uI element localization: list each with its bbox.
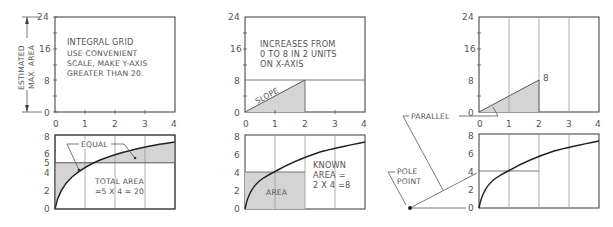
x-tick-1: 1 bbox=[272, 119, 278, 129]
y-tick-2: 2 bbox=[234, 186, 240, 196]
x-tick-4: 4 bbox=[595, 119, 601, 129]
y-tick-16: 16 bbox=[39, 44, 51, 54]
y-tick-8: 8 bbox=[468, 131, 474, 141]
x-tick-3: 3 bbox=[142, 119, 148, 129]
x-tick-1: 1 bbox=[82, 119, 88, 129]
x-tick-2: 2 bbox=[536, 119, 542, 129]
middle-integral-chart: 24 16 8 0 0 1 2 3 4 INCREASES FROM 0 TO … bbox=[228, 12, 367, 129]
equal-label: EQUAL bbox=[81, 140, 108, 149]
left-integral-chart: 24 16 8 0 0 1 2 3 4 INTEGRAL GRID USE CO… bbox=[15, 12, 177, 129]
total-area-formula: =5 X 4 = 20 bbox=[95, 187, 144, 196]
y-tick-16: 16 bbox=[230, 44, 242, 54]
slope-note-3: ON X-AXIS bbox=[260, 59, 304, 69]
y-tick-0: 0 bbox=[234, 108, 240, 118]
max-area-label: MAX. AREA bbox=[27, 44, 36, 89]
right-curve-chart: 8 6 4 2 0 POLE POINT bbox=[388, 131, 599, 213]
y-tick-16: 16 bbox=[464, 44, 476, 54]
y-tick-4: 4 bbox=[44, 168, 50, 178]
estimated-label: ESTIMATED bbox=[17, 45, 26, 90]
y-tick-0: 0 bbox=[44, 204, 50, 214]
y-tick-0: 0 bbox=[234, 204, 240, 214]
y-tick-4: 4 bbox=[234, 168, 240, 178]
y-tick-8: 8 bbox=[44, 76, 50, 86]
y-tick-4: 4 bbox=[468, 167, 474, 177]
known-area-2: AREA = bbox=[313, 170, 346, 180]
y-tick-8: 8 bbox=[468, 76, 474, 86]
x-tick-0: 0 bbox=[53, 119, 59, 129]
parallel-label: PARALLEL bbox=[411, 112, 450, 121]
known-area-1: KNOWN bbox=[313, 160, 346, 170]
y-tick-0: 0 bbox=[468, 203, 474, 213]
area-label: AREA bbox=[266, 188, 288, 197]
point-label: POINT bbox=[397, 177, 421, 186]
y-tick-0: 0 bbox=[44, 108, 50, 118]
y-tick-24: 24 bbox=[462, 12, 474, 22]
arrowhead-up-icon bbox=[25, 17, 29, 24]
pole-label: POLE bbox=[397, 167, 417, 176]
graphical-integration-diagram: 24 16 8 0 0 1 2 3 4 INTEGRAL GRID USE CO… bbox=[0, 0, 613, 227]
right-panel: 24 16 8 0 0 1 2 3 4 8 PARALLEL 8 6 bbox=[388, 12, 601, 213]
y-tick-24: 24 bbox=[228, 12, 240, 22]
y-tick-5: 5 bbox=[44, 158, 50, 168]
integral-grid-note-1: USE CONVENIENT bbox=[67, 49, 138, 58]
integral-grid-title: INTEGRAL GRID bbox=[67, 37, 134, 47]
middle-panel: 24 16 8 0 0 1 2 3 4 INCREASES FROM 0 TO … bbox=[228, 12, 367, 214]
left-panel: 24 16 8 0 0 1 2 3 4 INTEGRAL GRID USE CO… bbox=[15, 12, 177, 214]
y-tick-0: 0 bbox=[468, 108, 474, 118]
max-area-dimension-line: ESTIMATED MAX. AREA bbox=[15, 17, 42, 112]
pole-point-dot bbox=[408, 206, 412, 210]
x-tick-2: 2 bbox=[112, 119, 118, 129]
middle-curve-chart: 8 6 4 2 0 AREA KNOWN AREA = 2 X 4 =8 bbox=[234, 132, 365, 214]
y-tick-8: 8 bbox=[234, 76, 240, 86]
x-tick-3: 3 bbox=[566, 119, 572, 129]
arrowhead-down-icon bbox=[25, 105, 29, 112]
x-tick-3: 3 bbox=[332, 119, 338, 129]
slope-note-1: INCREASES FROM bbox=[260, 39, 336, 49]
y-tick-2: 2 bbox=[44, 186, 50, 196]
y-tick-8: 8 bbox=[44, 132, 50, 142]
total-area-label: TOTAL AREA bbox=[94, 177, 145, 186]
slope-note-2: 0 TO 8 IN 2 UNITS bbox=[260, 49, 337, 59]
x-tick-4: 4 bbox=[361, 119, 367, 129]
integral-grid-note-2: SCALE, MAKE Y-AXIS bbox=[67, 59, 147, 68]
point-label-8: 8 bbox=[543, 73, 549, 83]
x-tick-2: 2 bbox=[302, 119, 308, 129]
y-tick-8: 8 bbox=[234, 132, 240, 142]
left-curve-chart: 8 6 5 4 2 0 EQUAL TOTAL AREA =5 X 4 = 20 bbox=[44, 132, 175, 214]
x-tick-1: 1 bbox=[506, 119, 512, 129]
x-tick-0: 0 bbox=[243, 119, 249, 129]
y-tick-6: 6 bbox=[468, 149, 474, 159]
known-area-3: 2 X 4 =8 bbox=[313, 180, 351, 190]
x-tick-4: 4 bbox=[171, 119, 177, 129]
integral-grid-note-3: GREATER THAN 20. bbox=[67, 69, 144, 78]
y-tick-6: 6 bbox=[234, 150, 240, 160]
x-tick-0: 0 bbox=[477, 119, 483, 129]
y-tick-2: 2 bbox=[468, 185, 474, 195]
